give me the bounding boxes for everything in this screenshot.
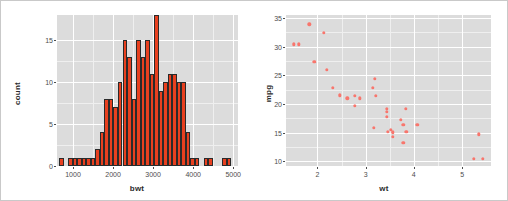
scatter-point bbox=[401, 141, 404, 144]
scatter-point bbox=[385, 110, 388, 113]
tick-mark-x bbox=[462, 167, 463, 169]
gridline-minor-vertical bbox=[93, 15, 94, 166]
gridline-major-vertical bbox=[366, 15, 367, 166]
scatter-point bbox=[391, 135, 394, 138]
scatter-point bbox=[353, 104, 356, 107]
tick-mark-x bbox=[366, 167, 367, 169]
tick-label-y: 30 bbox=[264, 43, 282, 50]
tick-mark-y bbox=[283, 161, 285, 162]
scatter-point bbox=[353, 94, 356, 97]
histogram-panel bbox=[57, 15, 238, 166]
tick-mark-x bbox=[73, 167, 74, 169]
histogram-bar bbox=[208, 158, 213, 166]
tick-mark-x bbox=[233, 167, 234, 169]
scatter-x-axis-title: wt bbox=[284, 184, 484, 193]
tick-mark-x bbox=[317, 167, 318, 169]
scatter-point bbox=[477, 133, 480, 136]
histogram-bar bbox=[59, 158, 64, 166]
scatter-point bbox=[372, 126, 375, 129]
scatter-point bbox=[325, 68, 328, 71]
scatter-point bbox=[481, 157, 484, 160]
tick-mark-x bbox=[153, 167, 154, 169]
scatter-point bbox=[399, 118, 402, 121]
histogram-bar bbox=[195, 158, 200, 166]
gridline-major-vertical bbox=[317, 15, 318, 166]
scatter-point bbox=[374, 94, 377, 97]
tick-label-x: 2 bbox=[315, 171, 319, 178]
tick-label-y: 15 bbox=[35, 37, 53, 44]
scatter-point bbox=[308, 22, 311, 25]
tick-label-y: 20 bbox=[264, 101, 282, 108]
tick-label-x: 1000 bbox=[65, 171, 81, 178]
tick-label-y: 25 bbox=[264, 72, 282, 79]
scatter-point bbox=[346, 97, 349, 100]
scatter-point bbox=[292, 43, 295, 46]
tick-label-y: 10 bbox=[264, 158, 282, 165]
histogram-x-axis-title: bwt bbox=[37, 184, 237, 193]
tick-label-x: 4000 bbox=[185, 171, 201, 178]
scatter-point bbox=[312, 60, 315, 63]
tick-mark-y bbox=[54, 40, 56, 41]
gridline-minor-vertical bbox=[390, 15, 391, 166]
tick-label-x: 5 bbox=[460, 171, 464, 178]
scatter-point bbox=[358, 97, 361, 100]
tick-label-y: 15 bbox=[264, 129, 282, 136]
tick-label-y: 10 bbox=[35, 79, 53, 86]
tick-mark-x bbox=[193, 167, 194, 169]
tick-mark-y bbox=[54, 124, 56, 125]
gridline-minor-vertical bbox=[213, 15, 214, 166]
tick-label-y: 0 bbox=[35, 163, 53, 170]
scatter-point bbox=[322, 31, 325, 34]
tick-label-x: 3 bbox=[364, 171, 368, 178]
figure-canvas: count bwt 051015 10002000300040005000 mp… bbox=[0, 0, 508, 201]
gridline-major-vertical bbox=[462, 15, 463, 166]
scatter-point bbox=[373, 77, 376, 80]
tick-mark-y bbox=[54, 82, 56, 83]
tick-mark-y bbox=[283, 18, 285, 19]
scatter-panel bbox=[286, 15, 491, 166]
tick-mark-x bbox=[113, 167, 114, 169]
gridline-major-vertical bbox=[414, 15, 415, 166]
tick-mark-y bbox=[283, 47, 285, 48]
gridline-minor-vertical bbox=[342, 15, 343, 166]
histogram-bar bbox=[227, 158, 232, 166]
tick-mark-y bbox=[283, 133, 285, 134]
gridline-major-vertical bbox=[73, 15, 74, 166]
tick-label-x: 5000 bbox=[225, 171, 241, 178]
scatter-point bbox=[404, 107, 407, 110]
tick-mark-y bbox=[54, 166, 56, 167]
tick-label-x: 4 bbox=[412, 171, 416, 178]
tick-label-x: 2000 bbox=[105, 171, 121, 178]
scatter-point bbox=[297, 43, 300, 46]
histogram-y-axis-title: count bbox=[13, 74, 22, 114]
scatter-point bbox=[415, 123, 418, 126]
tick-mark-y bbox=[283, 75, 285, 76]
tick-mark-x bbox=[414, 167, 415, 169]
scatter-y-axis-title: mpg bbox=[264, 74, 273, 114]
scatter-point bbox=[401, 123, 404, 126]
gridline-major-vertical bbox=[193, 15, 194, 166]
gridline-major-vertical bbox=[233, 15, 234, 166]
gridline-minor-vertical bbox=[438, 15, 439, 166]
tick-label-y: 5 bbox=[35, 121, 53, 128]
scatter-plot: mpg wt 101520253035 2345 bbox=[254, 1, 507, 200]
histogram-plot: count bwt 051015 10002000300040005000 bbox=[1, 1, 254, 200]
scatter-point bbox=[472, 157, 475, 160]
tick-label-x: 3000 bbox=[145, 171, 161, 178]
tick-label-y: 35 bbox=[264, 14, 282, 21]
tick-mark-y bbox=[283, 104, 285, 105]
